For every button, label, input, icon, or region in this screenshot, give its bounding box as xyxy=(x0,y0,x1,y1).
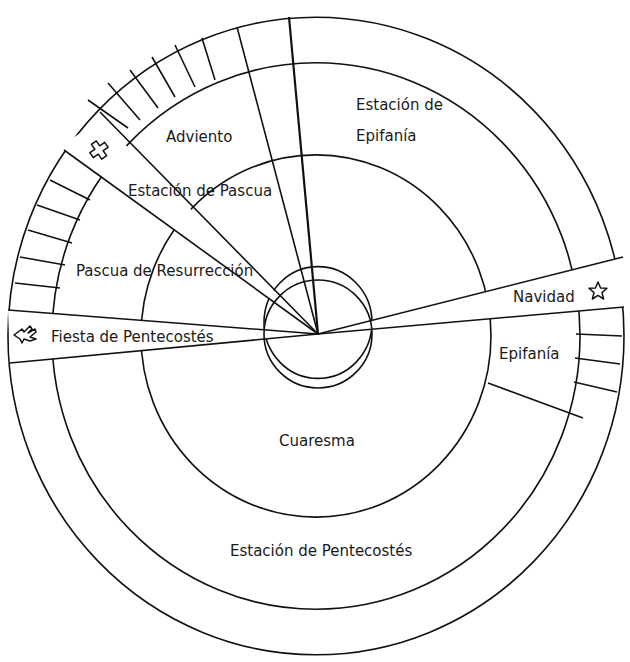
label-estacion-epifania-1: Estación de xyxy=(356,96,443,114)
label-cuaresma: Cuaresma xyxy=(279,432,355,450)
label-navidad: Navidad xyxy=(513,288,575,306)
week-ticks-adviento xyxy=(88,38,215,128)
label-pascua-resurreccion: Pascua de Resurrección xyxy=(76,262,253,280)
liturgical-calendar-wheel: Adviento Estación de Epifanía Estación d… xyxy=(0,0,630,662)
label-adviento: Adviento xyxy=(166,128,232,146)
label-fiesta-pentecostes: Fiesta de Pentecostés xyxy=(51,328,214,346)
label-estacion-pascua: Estación de Pascua xyxy=(128,182,272,200)
label-estacion-pentecostes: Estación de Pentecostés xyxy=(230,542,412,560)
label-epifania: Epifanía xyxy=(499,345,560,363)
week-ticks-epifania xyxy=(574,334,622,392)
label-estacion-epifania-2: Epifanía xyxy=(356,127,417,145)
